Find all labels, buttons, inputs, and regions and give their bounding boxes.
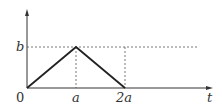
y-label-b: b xyxy=(16,40,24,53)
x-axis-label-t: t xyxy=(207,91,212,104)
origin-label: 0 xyxy=(16,91,24,104)
y-axis-arrow-icon xyxy=(25,9,29,16)
diagram-canvas xyxy=(0,0,222,104)
x-label-a: a xyxy=(72,91,80,104)
x-label-2a: 2a xyxy=(116,91,132,104)
triangle-pulse-diagram: b 0 a 2a t xyxy=(0,0,222,104)
